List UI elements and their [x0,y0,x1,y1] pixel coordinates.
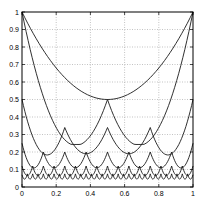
y-tick-label: 0.5 [9,96,19,103]
curve-level-2 [22,12,193,144]
y-tick-label: 0.8 [9,44,19,51]
y-tick-label: 0.9 [9,26,19,33]
y-tick-label: 0.6 [9,79,19,86]
curves [22,12,193,179]
curve-level-1 [22,12,193,100]
y-tick-label: 1 [15,9,19,16]
x-tick-label: 0.2 [51,190,61,197]
chart: 00.20.40.60.81 00.10.20.30.40.50.60.70.8… [0,0,204,208]
x-tick-label: 0.6 [120,190,130,197]
x-tick-label: 0.8 [154,190,164,197]
y-tick-label: 0.1 [9,166,19,173]
curve-level-4 [22,143,193,168]
y-tick-label: 0.3 [9,131,19,138]
y-tick-label: 0.2 [9,149,19,156]
y-tick-label: 0.7 [9,61,19,68]
x-tick-label: 1 [191,190,195,197]
y-tick-label: 0.4 [9,114,19,121]
x-tick-label: 0.4 [86,190,96,197]
y-tick-label: 0 [15,184,19,191]
x-tick-label: 0 [20,190,24,197]
